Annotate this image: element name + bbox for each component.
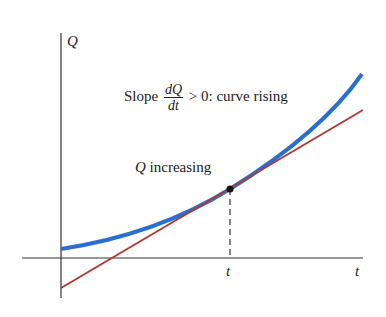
slope-suffix: > 0: curve rising bbox=[189, 88, 288, 104]
x-axis-label: t bbox=[355, 263, 359, 280]
x-tick-label: t bbox=[226, 263, 230, 280]
derivative-denominator: dt bbox=[164, 98, 183, 113]
point-label-text: increasing bbox=[146, 159, 211, 175]
slope-prefix: Slope bbox=[124, 88, 158, 104]
tangent-line bbox=[61, 110, 363, 288]
derivative-fraction: dQ dt bbox=[164, 82, 183, 113]
slope-annotation: Slope dQ dt > 0: curve rising bbox=[124, 82, 288, 113]
point-label-var: Q bbox=[135, 159, 146, 175]
y-axis-label: Q bbox=[67, 33, 78, 50]
point-annotation: Q increasing bbox=[135, 159, 211, 176]
derivative-numerator: dQ bbox=[164, 82, 183, 98]
tangent-point bbox=[227, 186, 234, 193]
